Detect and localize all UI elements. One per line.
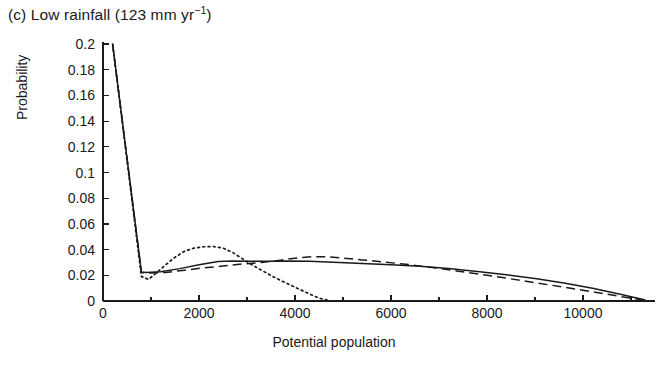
y-tick-label: 0.1	[35, 165, 95, 181]
figure-container: (c) Low rainfall (123 mm yr−1) Probabili…	[0, 0, 668, 373]
y-tick-label: 0.14	[35, 113, 95, 129]
y-tick-label: 0.2	[35, 36, 95, 52]
panel-title-exponent: −1	[194, 4, 206, 16]
x-axis-label: Potential population	[0, 334, 668, 350]
x-tick-label: 4000	[250, 305, 340, 321]
x-tick-label: 6000	[346, 305, 436, 321]
y-tick-label: 0.06	[35, 216, 95, 232]
panel-title-tail: )	[206, 6, 211, 23]
x-tick-label: 8000	[442, 305, 532, 321]
series-line-dashed	[113, 44, 646, 300]
y-tick-label: 0.12	[35, 139, 95, 155]
y-tick-label: 0.16	[35, 87, 95, 103]
y-tick-label: 0.18	[35, 62, 95, 78]
tick-marks	[103, 44, 631, 301]
y-tick-label: 0.04	[35, 242, 95, 258]
x-tick-label: 0	[58, 305, 148, 321]
y-tick-label: 0.08	[35, 190, 95, 206]
y-tick-label: 0.02	[35, 267, 95, 283]
series-paths	[113, 44, 646, 300]
x-tick-label: 2000	[154, 305, 244, 321]
x-tick-label: 10000	[538, 305, 628, 321]
y-axis-label: Probability	[14, 0, 30, 120]
